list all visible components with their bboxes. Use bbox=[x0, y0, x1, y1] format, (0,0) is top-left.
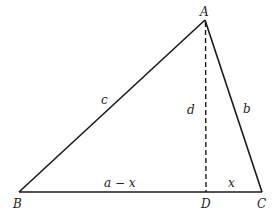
side-c bbox=[19, 20, 205, 192]
side-b bbox=[205, 20, 262, 192]
vertex-label-d: D bbox=[200, 197, 211, 211]
side-label-c: c bbox=[101, 93, 108, 107]
vertex-label-a: A bbox=[199, 5, 209, 19]
vertex-label-b: B bbox=[12, 197, 22, 211]
segment-label-dc: x bbox=[228, 176, 235, 190]
segment-label-bd: a − x bbox=[104, 176, 136, 190]
altitude-label-d: d bbox=[187, 103, 195, 117]
altitude-d bbox=[206, 22, 207, 192]
triangle-diagram: A B C D c d b a − x x bbox=[0, 0, 280, 222]
side-label-b: b bbox=[243, 102, 251, 116]
vertex-label-c: C bbox=[257, 197, 266, 211]
